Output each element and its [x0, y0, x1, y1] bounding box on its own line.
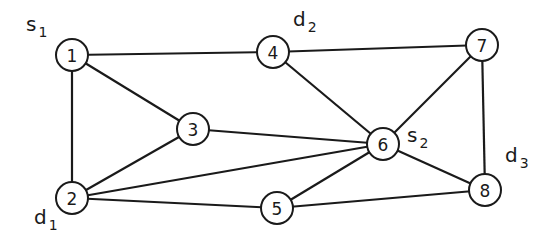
node-label: 7 — [477, 36, 488, 56]
node-6: 6 — [367, 128, 399, 160]
annotation-s2: s2 — [407, 123, 428, 151]
node-4: 4 — [257, 36, 289, 68]
node-5: 5 — [261, 192, 293, 224]
edge-3-6 — [193, 129, 383, 144]
annotation-base: d — [34, 205, 47, 229]
node-7: 7 — [466, 29, 498, 61]
edge-4-6 — [273, 52, 383, 144]
annotation-base: d — [293, 7, 306, 31]
annotation-d1: d1 — [34, 205, 58, 233]
annotation-base: d — [505, 143, 518, 167]
node-label: 6 — [378, 135, 389, 155]
edges-layer — [72, 45, 485, 208]
node-2: 2 — [56, 182, 88, 214]
annotation-d2: d2 — [293, 7, 317, 35]
edge-1-4 — [72, 52, 273, 55]
node-label: 5 — [272, 199, 283, 219]
annotation-subscript: 2 — [419, 135, 428, 151]
annotation-subscript: 3 — [520, 155, 529, 171]
annotation-base: s — [407, 123, 417, 147]
network-graph: 12345678 s1d2s2d3d1 — [0, 0, 556, 239]
annotation-subscript: 1 — [49, 217, 58, 233]
annotation-d3: d3 — [505, 143, 529, 171]
edge-2-5 — [72, 198, 277, 208]
node-label: 3 — [188, 120, 199, 140]
annotation-base: s — [26, 12, 36, 36]
node-label: 8 — [480, 181, 491, 201]
node-label: 2 — [67, 189, 78, 209]
annotation-subscript: 2 — [308, 19, 317, 35]
node-8: 8 — [469, 174, 501, 206]
node-1: 1 — [56, 39, 88, 71]
edge-5-8 — [277, 190, 485, 208]
annotation-subscript: 1 — [38, 24, 47, 40]
annotation-s1: s1 — [26, 12, 47, 40]
edge-4-7 — [273, 45, 482, 52]
node-label: 4 — [268, 43, 279, 63]
edge-1-3 — [72, 55, 193, 129]
node-label: 1 — [67, 46, 78, 66]
edge-7-6 — [383, 45, 482, 144]
edge-7-8 — [482, 45, 485, 190]
node-3: 3 — [177, 113, 209, 145]
